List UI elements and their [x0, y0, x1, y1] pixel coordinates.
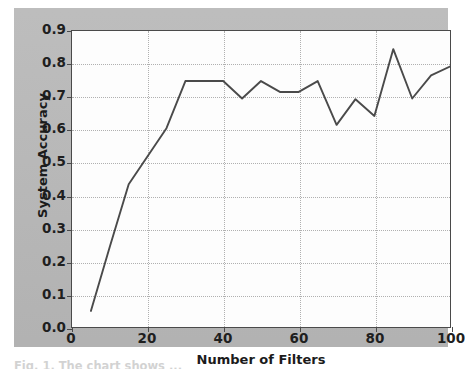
plot-area	[71, 30, 451, 328]
x-tick-label: 60	[290, 332, 309, 346]
x-tick-label: 40	[214, 332, 233, 346]
x-axis-tick-labels: 020406080100	[14, 332, 448, 350]
system-accuracy-line	[91, 49, 450, 311]
figure-canvas: 0.00.10.20.30.40.50.60.70.80.9 020406080…	[14, 8, 448, 347]
x-tick-label: 0	[66, 332, 75, 346]
plot-inner	[72, 31, 450, 327]
data-line-series	[72, 31, 450, 327]
x-tick-label: 100	[437, 332, 465, 346]
y-tick-label: 0.1	[42, 288, 66, 302]
x-axis-title: Number of Filters	[71, 352, 451, 367]
x-tick-label: 20	[138, 332, 157, 346]
y-axis-title: System Accuracy	[35, 66, 50, 246]
y-tick-label: 0.2	[42, 255, 66, 269]
y-tick-label: 0.9	[42, 23, 66, 37]
x-tick-label: 80	[366, 332, 385, 346]
